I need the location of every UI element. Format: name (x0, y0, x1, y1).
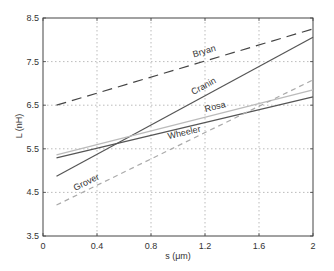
series-label-wheeler: Wheeler (167, 124, 202, 141)
series-label-grover: Grover (72, 172, 101, 193)
series-line-grover (57, 80, 314, 205)
x-tick-label: 2 (310, 241, 315, 251)
x-tick-label: 0.8 (145, 241, 158, 251)
y-axis-ticks: 3.54.55.56.57.58.5 (26, 13, 313, 241)
series-label-bryan: Bryan (191, 43, 216, 59)
x-tick-label: 1.2 (199, 241, 212, 251)
y-tick-label: 7.5 (26, 57, 39, 67)
inductance-chart: BryanCraninRosaWheelerGrover 00.40.81.21… (0, 0, 334, 271)
series-label-cranin: Cranin (190, 75, 218, 96)
series-line-rosa (57, 90, 314, 155)
y-tick-label: 5.5 (26, 144, 39, 154)
y-tick-label: 3.5 (26, 231, 39, 241)
x-axis-label: s (μm) (165, 251, 191, 261)
y-tick-label: 6.5 (26, 100, 39, 110)
series-line-cranin (57, 37, 314, 176)
x-tick-label: 0.4 (91, 241, 104, 251)
plot-frame (43, 18, 313, 236)
y-tick-label: 4.5 (26, 187, 39, 197)
x-tick-label: 1.6 (253, 241, 266, 251)
grid-lines (43, 18, 313, 236)
y-tick-label: 8.5 (26, 13, 39, 23)
y-axis-label: L (nH) (14, 114, 24, 139)
x-tick-label: 0 (40, 241, 45, 251)
series-label-rosa: Rosa (204, 99, 227, 114)
series-line-bryan (57, 29, 314, 105)
